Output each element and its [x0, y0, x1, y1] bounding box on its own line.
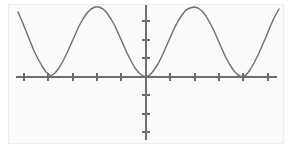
- graph-figure: [0, 0, 292, 156]
- plot-canvas: [0, 0, 292, 156]
- cosine-wave-curve: [18, 7, 279, 77]
